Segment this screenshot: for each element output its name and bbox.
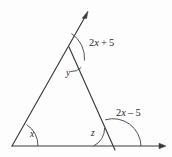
label-top-constant: 5 <box>109 37 114 48</box>
label-right-constant: 5 <box>135 107 140 118</box>
label-right-interior-angle: z <box>91 129 95 139</box>
label-top-exterior-angle: 2x + 5 <box>89 38 114 49</box>
label-left-interior-angle: x <box>30 130 34 140</box>
figure-canvas <box>0 0 172 157</box>
label-right-variable: x <box>121 107 126 118</box>
geometry-figure: 2x + 5 2x – 5 y x z <box>0 0 172 157</box>
label-apex-interior-angle: y <box>66 69 70 79</box>
label-top-operator: + <box>101 37 107 48</box>
label-right-exterior-angle: 2x – 5 <box>116 108 141 119</box>
label-top-variable: x <box>94 37 99 48</box>
arc-right-interior-z <box>94 128 105 146</box>
baseline-right-arrow-icon <box>159 143 166 149</box>
arc-right-exterior <box>105 119 141 146</box>
label-right-operator: – <box>128 107 133 118</box>
ray-top-arrow-icon <box>82 11 88 19</box>
